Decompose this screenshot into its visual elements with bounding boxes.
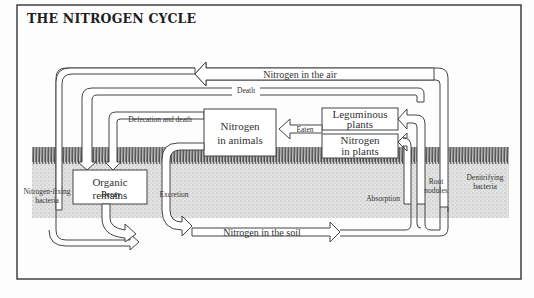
- root-nodules-line1: Root: [429, 177, 445, 186]
- box-nitrogen-in-animals: [204, 109, 276, 156]
- denitrifying-line1: Denitrifying: [466, 173, 503, 182]
- death-label: Death: [237, 86, 255, 95]
- nitrogen-in-animals-line2: in animals: [217, 134, 263, 146]
- nitrogen-fixing-line1: Nitrogen-fixing: [23, 187, 70, 196]
- excretion-label: Excretion: [159, 190, 188, 199]
- nitrogen-cycle-diagram: Organic remains Nitrogen in animals Legu…: [0, 0, 534, 298]
- denitrifying-line2: bacteria: [473, 182, 497, 191]
- decay-label: Decay: [101, 190, 121, 199]
- absorption-label: Absorption: [366, 194, 400, 203]
- air-arrow-label: Nitrogen in the air: [263, 69, 337, 80]
- root-nodules-line2: nodules: [424, 186, 447, 195]
- soil-arrow-label: Nitrogen in the soil: [223, 227, 301, 238]
- defecation-label: Defecation and death: [128, 115, 192, 124]
- leguminous-plants-line2: plants: [347, 118, 373, 130]
- nitrogen-fixing-line2: bacteria: [35, 196, 59, 205]
- nitrogen-in-animals-line1: Nitrogen: [220, 120, 260, 132]
- nitrogen-in-plants-line2: in plants: [341, 145, 379, 157]
- eaten-label: Eaten: [296, 125, 313, 134]
- organic-remains-line1: Organic: [92, 176, 127, 188]
